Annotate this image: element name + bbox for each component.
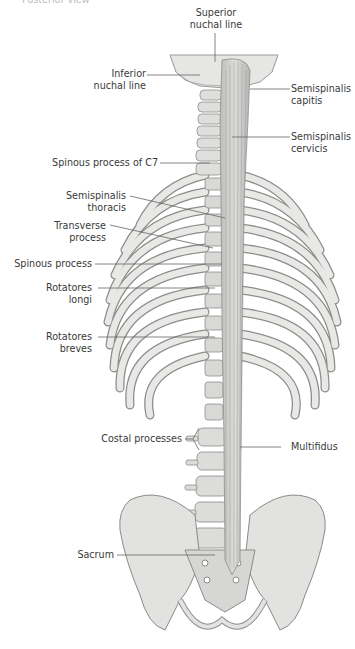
label-line: breves [40,343,92,355]
label-spinous-process-c7: Spinous process of C7 [40,157,158,169]
label-line: Superior [188,7,244,19]
label-superior-nuchal-line: Superior nuchal line [188,7,244,30]
label-line: Semispinalis [291,83,351,95]
label-semispinalis-cervicis: Semispinalis cervicis [291,131,351,154]
label-line: Inferior [90,68,146,80]
label-transverse-process: Transverse process [50,220,106,243]
label-semispinalis-thoracis: Semispinalis thoracis [60,190,126,213]
label-line: cervicis [291,143,351,155]
label-line: Rotatores [40,331,92,343]
label-line: thoracis [60,202,126,214]
label-line: Semispinalis [60,190,126,202]
label-line: nuchal line [90,80,146,92]
label-multifidus: Multifidus [291,441,338,453]
label-line: process [50,232,106,244]
label-line: Semispinalis [291,131,351,143]
label-costal-processes: Costal processes [70,433,182,445]
rib-cage-right [240,175,337,415]
label-line: longi [40,294,92,306]
label-line: Transverse [50,220,106,232]
label-rotatores-longi: Rotatores longi [40,282,92,305]
label-spinous-process: Spinous process [10,258,92,270]
label-line: Rotatores [40,282,92,294]
label-line: capitis [291,95,351,107]
label-inferior-nuchal-line: Inferior nuchal line [90,68,146,91]
label-rotatores-breves: Rotatores breves [40,331,92,354]
label-sacrum: Sacrum [60,549,114,561]
label-semispinalis-capitis: Semispinalis capitis [291,83,351,106]
label-line: nuchal line [188,19,244,31]
